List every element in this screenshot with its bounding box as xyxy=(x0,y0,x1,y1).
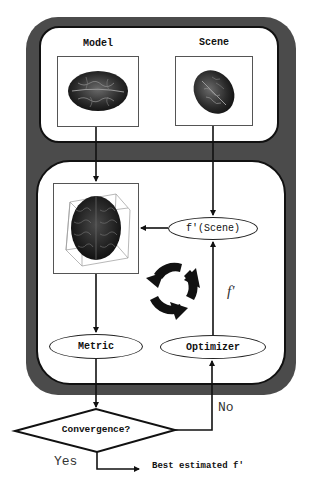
yes-branch-arrow xyxy=(97,451,139,469)
connector-layer xyxy=(0,0,309,488)
no-branch-arrow xyxy=(175,361,212,430)
decision-label: Convergence? xyxy=(40,424,152,435)
